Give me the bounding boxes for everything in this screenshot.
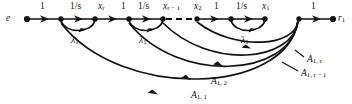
node-x1 xyxy=(262,16,267,21)
node-label-xr: xr xyxy=(98,2,104,12)
node-xr xyxy=(92,16,97,21)
node-e xyxy=(24,16,30,22)
node-label-xr-1: xr − 1 xyxy=(163,2,180,12)
node-label-e: e xyxy=(6,14,10,24)
feedback-arc-small-2 xyxy=(129,20,163,33)
leader-line-a1r xyxy=(295,50,304,57)
edge-label-a1r-1: A1, r − 1 xyxy=(301,69,327,79)
node-3 xyxy=(126,16,131,21)
node-1 xyxy=(58,16,63,21)
edge-label-gain-1d: 1 xyxy=(311,2,316,12)
node-r1 xyxy=(330,16,336,22)
leader-line-a1r1 xyxy=(282,62,298,71)
graph-canvas xyxy=(0,0,352,104)
node-label-r1: r1 xyxy=(338,14,345,24)
edge-label-gain-1a: 1 xyxy=(40,2,45,12)
edge-label-lambda-1: λ1 xyxy=(71,36,79,46)
edge-label-gain-1c: 1 xyxy=(214,2,219,12)
edge-label-a12: A1, 2 xyxy=(211,77,227,87)
node-label-x1: x1 xyxy=(262,2,270,12)
edge-label-a11: A1, 1 xyxy=(191,91,207,101)
node-6 xyxy=(228,16,233,21)
edge-label-lambda-2: λ1 xyxy=(139,36,147,46)
node-label-x2: x2 xyxy=(194,2,202,12)
edge-label-a1r: A1, r xyxy=(307,55,322,65)
node-xr1 xyxy=(160,16,165,21)
edge-label-inv-s-3: 1/s xyxy=(236,2,247,12)
feedback-arc-small-3 xyxy=(231,20,265,33)
edge-label-inv-s-1: 1/s xyxy=(70,2,81,12)
feedback-arc-small-1 xyxy=(61,20,95,33)
edge-label-lambda-3: λ1 xyxy=(241,36,249,46)
edge-label-inv-s-2: 1/s xyxy=(138,2,149,12)
node-8 xyxy=(296,16,301,21)
node-x2 xyxy=(194,16,199,21)
signal-flow-graph-figure: e r1 1 1/s xr 1 1/s xr − 1 x2 1 1/s x1 1… xyxy=(0,0,352,104)
edge-label-gain-1b: 1 xyxy=(121,2,126,12)
